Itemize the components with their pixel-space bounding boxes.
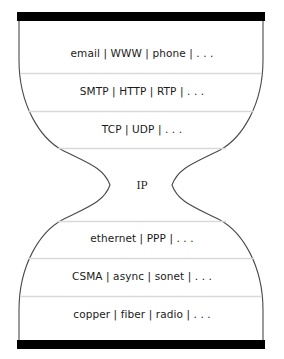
diagram-canvas: email | WWW | phone | . . . SMTP | HTTP … <box>0 0 284 359</box>
bottom-black-bar <box>17 340 265 349</box>
layer-label-network: IP <box>0 179 284 191</box>
top-black-bar <box>17 12 265 21</box>
